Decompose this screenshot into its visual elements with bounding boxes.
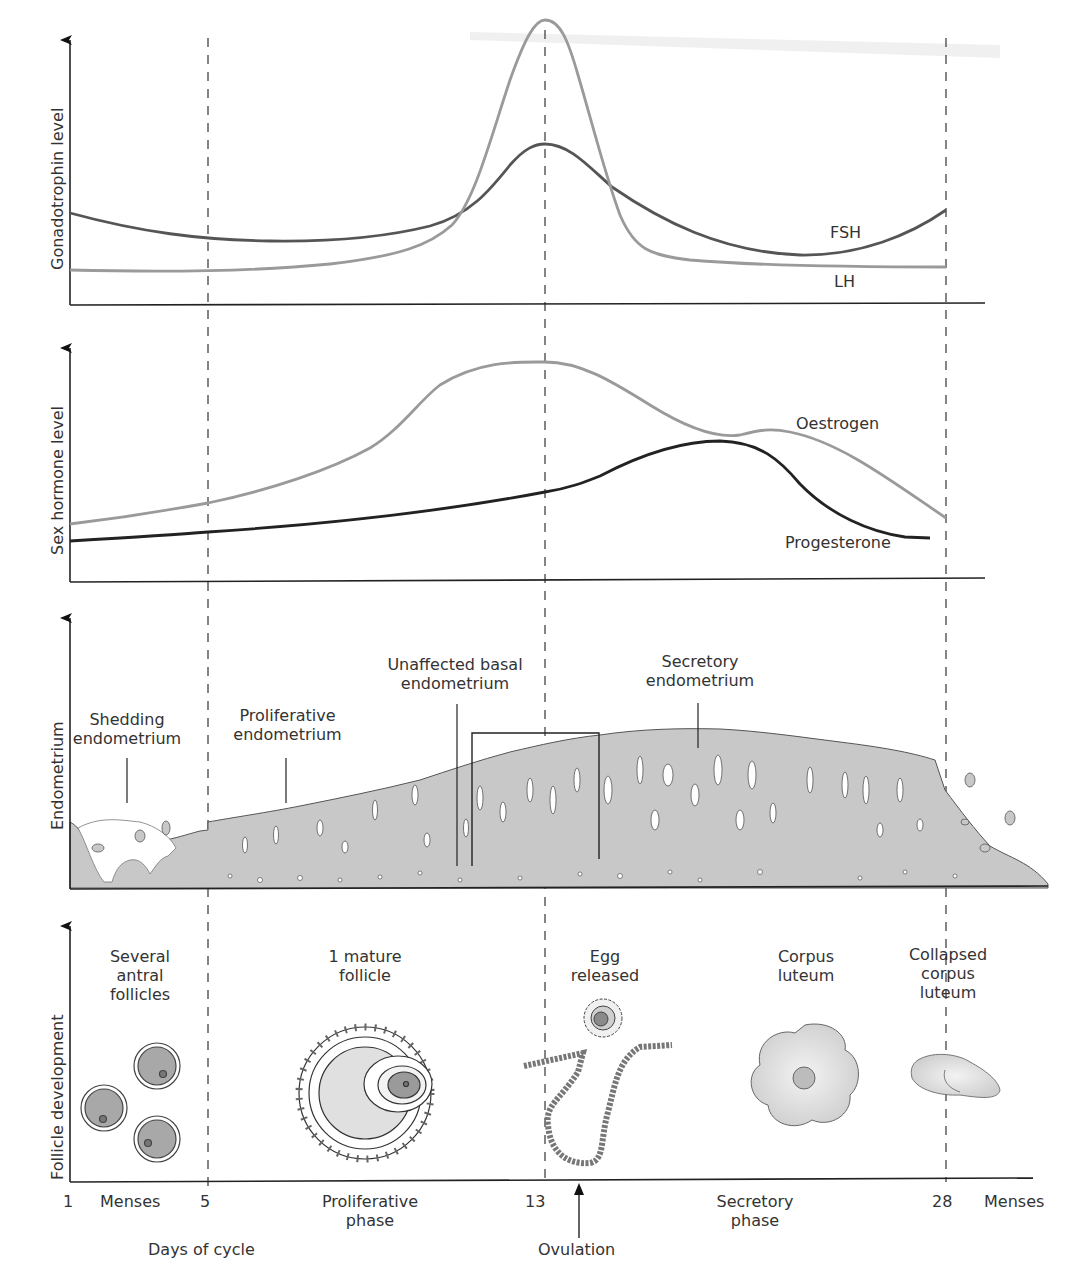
basal-endometrium-label: Unaffected basal endometrium [380,655,530,693]
shedding-endometrium-label: Shedding endometrium [72,710,182,748]
collapsed-corpus-luteum-icon [911,1054,1000,1097]
tick-day-1: 1 [63,1192,73,1211]
y-axis-label-follicle: Follicle development [48,1015,67,1180]
progesterone-label: Progesterone [785,533,891,552]
y-axis-label-endometrium: Endometrium [48,721,67,830]
corpus-luteum-label: Corpus luteum [766,947,846,985]
tick-day-13: 13 [525,1192,545,1211]
antral-follicles-label: Several antral follicles [100,947,180,1004]
scan-artifact [470,32,1000,58]
phase-menses-start: Menses [100,1192,160,1211]
egg-released-icon [524,999,672,1163]
progesterone-curve [70,441,930,541]
collapsed-corpus-luteum-label: Collapsed corpus luteum [908,945,988,1002]
ovulation-label: Ovulation [538,1240,615,1259]
mature-follicle-icon [299,1027,432,1159]
egg-released-label: Egg released [565,947,645,985]
oestrogen-label: Oestrogen [796,414,879,433]
fsh-curve [70,144,946,255]
ovulation-arrow-icon [574,1183,584,1238]
endometrium-tissue [70,729,1048,888]
follicle-axes [70,926,1033,1182]
lh-label: LH [834,272,855,291]
x-axis-title: Days of cycle [148,1240,255,1259]
lh-curve [70,20,946,271]
corpus-luteum-icon [751,1024,858,1126]
proliferative-endometrium-label: Proliferative endometrium [230,706,345,744]
phase-proliferative: Proliferative phase [310,1192,430,1230]
phase-menses-end: Menses [984,1192,1044,1211]
secretory-endometrium-label: Secretory endometrium [640,652,760,690]
y-axis-label-gonadotrophin: Gonadotrophin level [48,108,67,270]
y-axis-label-sex-hormone: Sex hormone level [48,406,67,555]
tick-day-5: 5 [200,1192,210,1211]
phase-dividers [208,30,946,1190]
phase-secretory: Secretory phase [700,1192,810,1230]
mature-follicle-label: 1 mature follicle [320,947,410,985]
menstrual-cycle-figure: Gonadotrophin level Sex hormone level En… [0,0,1078,1281]
fsh-label: FSH [830,223,861,242]
antral-follicles-icon [81,1043,180,1162]
tick-day-28: 28 [932,1192,952,1211]
